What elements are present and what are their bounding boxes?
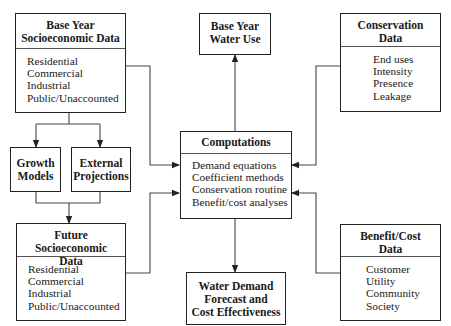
title-line: Data	[341, 32, 440, 45]
list-item: Public/Unaccounted	[27, 92, 125, 104]
title-line: Socioeconomic Data	[16, 32, 125, 45]
node-computations: Computations Demand equations Coefficien…	[180, 131, 292, 219]
title-line: Models	[11, 170, 60, 183]
list-item: Demand equations	[192, 159, 291, 171]
title-line: Projections	[72, 170, 130, 183]
list-item: Public/Unaccounted	[28, 300, 125, 312]
node-conservation-data: Conservation Data End uses Intensity Pre…	[340, 13, 441, 112]
title-line: Growth	[11, 157, 60, 170]
list-item: Industrial	[28, 287, 125, 299]
title-line: Water Demand	[187, 280, 285, 293]
title-line: Base Year	[16, 19, 125, 32]
list-item: Industrial	[27, 79, 125, 91]
list-item: Society	[366, 300, 440, 312]
title-line: Cost Effectiveness	[187, 306, 285, 319]
list-item: Conservation routine	[192, 183, 291, 195]
node-growth-models: Growth Models	[10, 147, 61, 192]
title-line: External	[72, 157, 130, 170]
node-water-demand-forecast: Water Demand Forecast and Cost Effective…	[186, 272, 286, 325]
node-external-projections: External Projections	[71, 147, 131, 192]
list-item: Commercial	[28, 275, 125, 287]
item-list: Customer Utility Community Society	[341, 257, 440, 312]
title-line: Water Use	[200, 33, 270, 46]
title-line: Data	[341, 243, 440, 256]
list-item: Benefit/cost analyses	[192, 196, 291, 208]
list-item: End uses	[373, 53, 440, 65]
list-item: Community	[366, 287, 440, 299]
item-list: Demand equations Coefficient methods Con…	[181, 154, 291, 208]
list-item: Presence	[373, 77, 440, 89]
list-item: Commercial	[27, 67, 125, 79]
node-title: Base Year Socioeconomic Data	[16, 14, 125, 48]
node-base-year-water-use: Base Year Water Use	[199, 13, 271, 55]
node-base-year-socioeconomic-data: Base Year Socioeconomic Data Residential…	[15, 13, 126, 113]
title-line: Base Year	[200, 20, 270, 33]
item-list: Residential Commercial Industrial Public…	[16, 49, 125, 104]
list-item: Leakage	[373, 90, 440, 102]
list-item: Customer	[366, 263, 440, 275]
list-item: Intensity	[373, 65, 440, 77]
title-line: Benefit/Cost	[341, 230, 440, 243]
list-item: Coefficient methods	[192, 171, 291, 183]
node-benefit-cost-data: Benefit/Cost Data Customer Utility Commu…	[340, 224, 441, 321]
title-line: Conservation	[341, 19, 440, 32]
node-future-socioeconomic-data: Future Socioeconomic Data Residential Co…	[16, 223, 126, 321]
title-line: Forecast and	[187, 293, 285, 306]
list-item: Utility	[366, 275, 440, 287]
title-line: Future Socioeconomic	[17, 229, 125, 255]
node-title: Computations	[181, 132, 291, 153]
item-list: Residential Commercial Industrial Public…	[17, 257, 125, 312]
list-item: Residential	[27, 55, 125, 67]
list-item: Residential	[28, 263, 125, 275]
item-list: End uses Intensity Presence Leakage	[341, 47, 440, 102]
